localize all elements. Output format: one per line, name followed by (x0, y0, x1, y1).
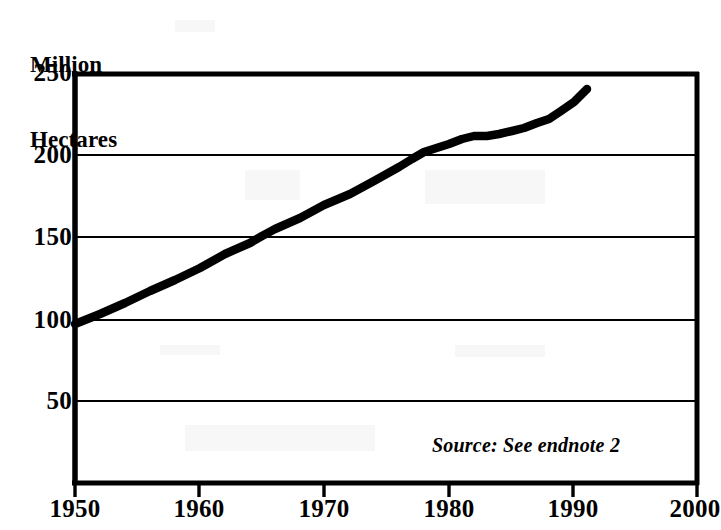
x-tick-label: 1950 (30, 495, 120, 523)
chart-figure: Million Hectares 250 200 150 100 50 (0, 0, 721, 530)
x-tick-label: 2000 (650, 495, 721, 523)
plot-frame (72, 72, 699, 485)
x-tick-label: 1990 (528, 495, 618, 523)
x-tick-label: 1970 (279, 495, 369, 523)
gridlines (74, 155, 698, 401)
x-tick-label: 1960 (154, 495, 244, 523)
data-line-series-1 (75, 89, 587, 324)
source-annotation: Source: See endnote 2 (432, 434, 620, 457)
x-tick-label: 1980 (404, 495, 494, 523)
